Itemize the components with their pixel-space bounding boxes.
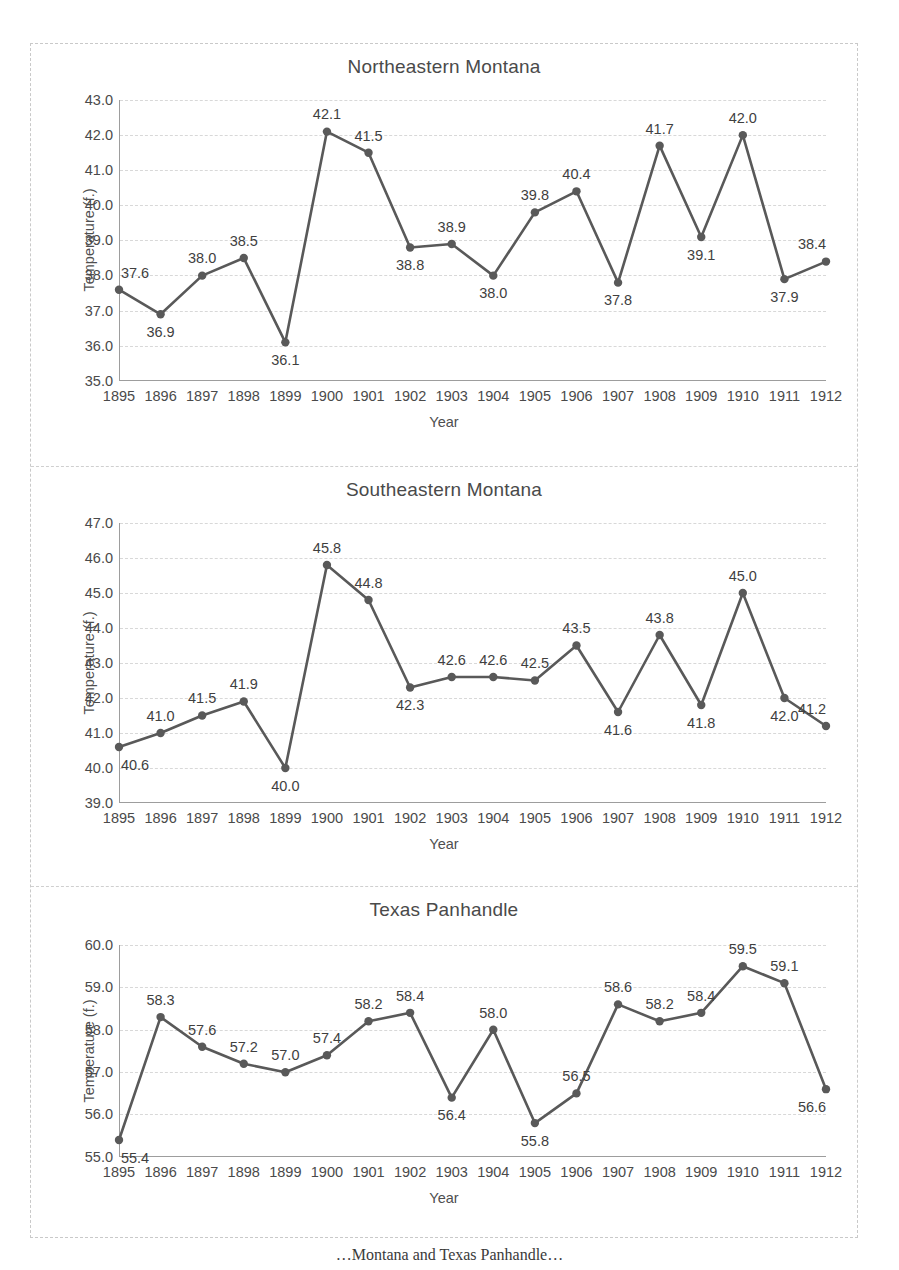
x-axis-label: Year (31, 414, 857, 430)
data-point-label: 42.6 (438, 652, 466, 668)
data-point (406, 1008, 414, 1016)
data-point (739, 589, 747, 597)
x-axis-tick-label: 1905 (519, 810, 551, 826)
data-point (115, 285, 123, 293)
x-axis-tick-label: 1898 (228, 388, 260, 404)
x-axis-tick-label: 1906 (560, 810, 592, 826)
data-point (156, 310, 164, 318)
data-point (240, 254, 248, 262)
data-point-label: 55.8 (521, 1133, 549, 1149)
data-point-label: 42.3 (396, 697, 424, 713)
x-axis-tick-label: 1911 (769, 388, 800, 404)
data-point (448, 1093, 456, 1101)
x-axis-tick-label: 1906 (560, 1164, 592, 1180)
x-axis-tick-label: 1908 (644, 810, 676, 826)
x-axis-tick-label: 1903 (436, 810, 468, 826)
data-point (156, 1013, 164, 1021)
x-axis-tick-label: 1904 (477, 810, 509, 826)
data-point-label: 36.1 (271, 352, 299, 368)
data-point-label: 38.0 (479, 285, 507, 301)
data-point (614, 1000, 622, 1008)
data-point (614, 708, 622, 716)
data-point-label: 58.3 (146, 992, 174, 1008)
x-axis-tick-label: 1903 (436, 1164, 468, 1180)
data-point-label: 37.6 (121, 265, 149, 281)
data-point-label: 58.4 (687, 988, 715, 1004)
x-axis-tick-label: 1900 (311, 1164, 343, 1180)
x-axis-tick-label: 1896 (144, 1164, 176, 1180)
x-axis-tick-label: 1901 (352, 810, 384, 826)
data-point-label: 58.4 (396, 988, 424, 1004)
data-point-label: 56.6 (798, 1099, 826, 1115)
data-point (281, 1068, 289, 1076)
x-axis-tick-label: 1896 (144, 388, 176, 404)
data-point-label: 43.5 (562, 620, 590, 636)
data-point (281, 338, 289, 346)
data-point (697, 233, 705, 241)
data-point (115, 1136, 123, 1144)
chart-panel-texas-panhandle: Texas Panhandle Temperature (f.)60.059.0… (31, 887, 857, 1237)
data-point (655, 631, 663, 639)
data-point-label: 56.4 (438, 1107, 466, 1123)
x-axis-tick-label: 1895 (103, 1164, 135, 1180)
x-axis-tick-label: 1907 (602, 388, 634, 404)
data-point (406, 683, 414, 691)
x-axis-tick-label: 1909 (685, 810, 717, 826)
chart-panel-southeastern-montana: Southeastern Montana Temperature (f.)47.… (31, 467, 857, 887)
data-point (240, 697, 248, 705)
data-point (198, 1042, 206, 1050)
x-axis-tick-label: 1901 (352, 388, 384, 404)
plot-wrap: Temperature (f.)60.059.058.057.056.055.0… (31, 923, 857, 1233)
x-axis-tick-label: 1897 (186, 810, 218, 826)
x-axis-tick-label: 1911 (769, 1164, 800, 1180)
data-point-label: 57.0 (271, 1047, 299, 1063)
plot-wrap: Temperature (f.)43.042.041.040.039.038.0… (31, 80, 857, 463)
x-axis-tick-label: 1909 (685, 388, 717, 404)
data-point-label: 37.9 (770, 289, 798, 305)
data-point-label: 58.2 (646, 996, 674, 1012)
x-axis-tick-label: 1897 (186, 1164, 218, 1180)
data-point-label: 41.6 (604, 722, 632, 738)
data-point-label: 58.0 (479, 1005, 507, 1021)
x-axis-label: Year (31, 1190, 857, 1206)
data-series (31, 923, 857, 1233)
data-point (655, 141, 663, 149)
data-point (489, 673, 497, 681)
x-axis-tick-label: 1895 (103, 388, 135, 404)
x-axis-tick-label: 1897 (186, 388, 218, 404)
data-point (198, 711, 206, 719)
x-axis-tick-label: 1912 (810, 388, 842, 404)
data-point-label: 41.0 (146, 708, 174, 724)
x-axis-tick-label: 1900 (311, 388, 343, 404)
data-point-label: 38.8 (396, 257, 424, 273)
chart-panel-northeastern-montana: Northeastern Montana Temperature (f.)43.… (31, 44, 857, 467)
data-point (655, 1017, 663, 1025)
chart-title: Northeastern Montana (31, 44, 857, 80)
data-point-label: 41.5 (354, 128, 382, 144)
x-axis-tick-label: 1912 (810, 810, 842, 826)
chart-title: Southeastern Montana (31, 467, 857, 503)
x-axis-tick-label: 1910 (727, 388, 759, 404)
data-point (822, 1085, 830, 1093)
x-axis-tick-label: 1902 (394, 388, 426, 404)
data-point-label: 39.8 (521, 187, 549, 203)
x-axis-tick-label: 1902 (394, 1164, 426, 1180)
data-point-label: 59.5 (729, 941, 757, 957)
x-axis-tick-label: 1905 (519, 388, 551, 404)
plot-wrap: Temperature (f.)47.046.045.044.043.042.0… (31, 503, 857, 883)
data-point (364, 596, 372, 604)
x-axis-label: Year (31, 836, 857, 852)
data-point (614, 278, 622, 286)
x-axis-tick-label: 1906 (560, 388, 592, 404)
data-point (323, 1051, 331, 1059)
x-axis-tick-label: 1905 (519, 1164, 551, 1180)
x-axis-tick-label: 1908 (644, 1164, 676, 1180)
x-axis-tick-label: 1911 (769, 810, 800, 826)
x-axis-tick-label: 1900 (311, 810, 343, 826)
data-point-label: 38.0 (188, 250, 216, 266)
data-point (448, 673, 456, 681)
x-axis-tick-label: 1912 (810, 1164, 842, 1180)
data-point-label: 38.9 (438, 219, 466, 235)
data-point-label: 44.8 (354, 575, 382, 591)
data-point-label: 40.6 (121, 757, 149, 773)
